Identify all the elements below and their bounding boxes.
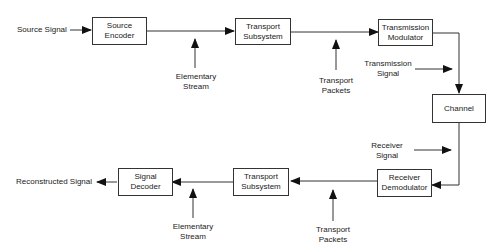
transport-subsystem-bottom-text: Transport Subsystem [241, 172, 281, 192]
reconstructed-signal-label: Reconstructed Signal [16, 177, 92, 187]
source-encoder-text: Source Encoder [105, 21, 135, 41]
transmission-modulator-text: Transmission Modulator [382, 23, 429, 43]
transport-subsystem-top-block: Transport Subsystem [235, 18, 291, 45]
receiver-demodulator-text: Receiver Demodulator [382, 173, 428, 193]
receiver-demodulator-block: Receiver Demodulator [377, 169, 432, 197]
transport-packets-top-label: Transport Packets [312, 76, 360, 96]
transport-packets-bottom-label: Transport Packets [310, 225, 356, 245]
signal-decoder-block: Signal Decoder [118, 168, 173, 196]
channel-block: Channel [432, 94, 486, 123]
source-signal-label: Source Signal [17, 25, 67, 35]
transmission-signal-label: Transmission Signal [363, 59, 413, 79]
source-encoder-block: Source Encoder [92, 17, 147, 45]
receiver-signal-label: Receiver Signal [366, 141, 408, 161]
channel-text: Channel [444, 104, 474, 114]
transport-subsystem-top-text: Transport Subsystem [243, 22, 283, 42]
elementary-stream-top-label: Elementary Stream [170, 72, 222, 92]
signal-decoder-text: Signal Decoder [130, 172, 160, 192]
transport-subsystem-bottom-block: Transport Subsystem [233, 168, 289, 196]
elementary-stream-bottom-label: Elementary Stream [168, 222, 218, 242]
transmission-modulator-block: Transmission Modulator [378, 19, 433, 46]
